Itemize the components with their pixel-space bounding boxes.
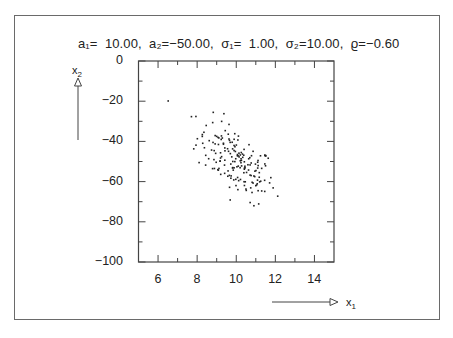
x-tick-label: 12 — [268, 272, 282, 286]
data-point — [265, 165, 267, 167]
data-point — [198, 162, 200, 164]
data-point — [193, 148, 195, 150]
y-tick-label: −60 — [102, 174, 123, 188]
data-point — [228, 150, 230, 152]
data-point — [235, 185, 237, 187]
y-axis-label: x2 — [72, 64, 82, 79]
data-point — [195, 116, 197, 118]
data-point — [228, 138, 230, 140]
data-point — [261, 168, 263, 170]
data-point — [249, 164, 251, 166]
data-point — [214, 143, 216, 145]
data-point — [260, 180, 262, 182]
data-point — [272, 187, 274, 189]
data-point — [246, 172, 248, 174]
data-point — [218, 144, 220, 146]
y-tick-label: −80 — [102, 214, 123, 228]
data-point — [238, 152, 240, 154]
data-point — [216, 136, 218, 138]
data-point — [212, 122, 214, 124]
data-point — [251, 155, 253, 157]
data-point — [232, 167, 234, 169]
data-point — [240, 152, 242, 154]
data-point — [224, 173, 226, 175]
data-point — [233, 167, 235, 169]
data-point — [227, 170, 229, 172]
data-point — [234, 146, 236, 148]
data-point — [220, 139, 222, 141]
data-point — [264, 191, 266, 193]
data-point — [213, 159, 215, 161]
data-point — [251, 181, 253, 183]
data-point — [227, 175, 229, 177]
data-point — [257, 179, 259, 181]
data-point — [243, 149, 245, 151]
y-tick-label: −40 — [102, 133, 123, 147]
data-point — [244, 165, 246, 167]
data-point — [245, 188, 247, 190]
data-point — [212, 142, 214, 144]
data-point — [224, 164, 226, 166]
data-point — [201, 136, 203, 138]
data-point — [222, 137, 224, 139]
data-point — [230, 153, 232, 155]
data-point — [255, 163, 257, 165]
data-point — [236, 144, 238, 146]
data-point — [217, 137, 219, 139]
data-point — [218, 168, 220, 170]
data-point — [235, 179, 237, 181]
y-tick-label: −20 — [102, 93, 123, 107]
data-point — [238, 135, 240, 137]
data-point — [205, 164, 207, 166]
data-point — [218, 169, 220, 171]
data-point — [202, 134, 204, 136]
data-point — [208, 158, 210, 160]
data-point — [255, 170, 257, 172]
y-tick-label: −100 — [95, 254, 123, 268]
data-point — [254, 176, 256, 178]
data-point — [224, 147, 226, 149]
data-point — [197, 138, 199, 140]
data-point — [220, 152, 222, 154]
data-point — [230, 177, 232, 179]
data-point — [229, 142, 231, 144]
data-point — [230, 163, 232, 165]
x-arrow-head-icon — [330, 299, 338, 306]
data-point — [240, 179, 242, 181]
y-arrow-head-icon — [75, 78, 82, 86]
data-point — [231, 156, 233, 158]
data-point — [208, 140, 210, 142]
data-point — [242, 157, 244, 159]
data-point — [233, 138, 235, 140]
data-point — [257, 190, 259, 192]
data-point — [212, 168, 214, 170]
data-point — [224, 150, 226, 152]
data-point — [227, 133, 229, 135]
data-point — [221, 121, 223, 123]
data-point — [252, 151, 254, 153]
data-point — [243, 172, 245, 174]
data-point — [240, 158, 242, 160]
data-point — [270, 177, 272, 179]
data-point — [264, 180, 266, 182]
scatter-plot — [0, 0, 453, 338]
data-point — [258, 176, 260, 178]
data-point — [235, 151, 237, 153]
x-tick-label: 6 — [154, 272, 161, 286]
data-point — [261, 190, 263, 192]
data-point — [229, 175, 231, 177]
data-point — [211, 149, 213, 151]
data-point — [234, 133, 236, 135]
data-point — [229, 187, 231, 189]
data-point — [255, 185, 257, 187]
data-point — [238, 156, 240, 158]
data-point — [205, 155, 207, 157]
data-point — [214, 168, 216, 170]
data-point — [232, 161, 234, 163]
data-point — [256, 183, 258, 185]
data-point — [257, 160, 259, 162]
x-axis-label: x1 — [346, 296, 356, 311]
data-point — [223, 113, 225, 115]
data-point — [191, 116, 193, 118]
data-point — [203, 131, 205, 133]
